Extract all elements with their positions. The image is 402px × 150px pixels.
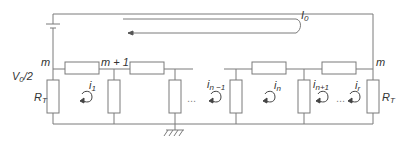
loop-current-label-n-minus-1: in −1 [207,79,225,92]
node-label-m-plus-1: m + 1 [101,57,129,68]
battery-icon [46,24,60,28]
shunt-resistor-3 [230,80,242,113]
loop-current-arrow-icon [316,91,328,103]
shunt-resistor-4 [298,80,310,113]
loop-current-label-n: in [274,80,281,93]
series-resistor-4 [322,62,356,74]
loop-current-label-n-plus-1: in+1 [313,79,329,92]
termination-resistor-right [367,80,379,113]
ellipsis-right: ... [336,93,345,104]
loop-current-arrow-icon [80,91,92,103]
shunt-resistor-2 [169,80,181,113]
termination-left-label: RT [34,92,47,105]
node-label-m-right: m [376,57,385,68]
loop-current-label-1: i1 [89,80,96,93]
circuit-diagram [0,0,402,150]
ellipsis-left: ... [187,93,196,104]
series-resistor-2 [130,62,164,74]
series-resistor-1 [65,62,99,74]
loop-current-label-r: ir [355,80,360,93]
series-resistor-3 [252,62,286,74]
termination-resistor-left [47,80,59,113]
node-label-m-left: m [41,57,50,68]
source-current-label: I0 [301,10,309,23]
termination-right-label: RT [382,92,395,105]
loop-current-arrow-icon [263,91,275,103]
loop-current-arrow-icon [209,91,221,103]
loop-current-arrow-icon [348,91,360,103]
shunt-resistor-1 [108,80,120,113]
source-current-arrow-icon [123,19,301,35]
voltage-label: V0/2 [12,71,33,84]
ground-icon [164,130,184,136]
